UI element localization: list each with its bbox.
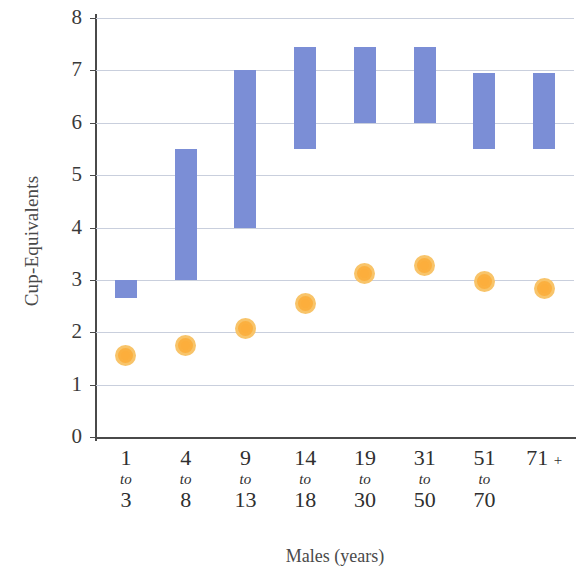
x-tick-label-top: 14 xyxy=(273,446,337,470)
y-tick-mark xyxy=(90,280,96,281)
range-bar xyxy=(294,47,316,149)
chart-container: Cup-Equivalents 012345678 1to34to89to131… xyxy=(0,0,576,577)
y-tick-label: 2 xyxy=(48,321,82,342)
x-tick-label-bottom: 50 xyxy=(393,488,457,512)
y-tick-label: 4 xyxy=(48,217,82,238)
x-tick-label-top: 9 xyxy=(213,446,277,470)
gridline xyxy=(96,70,574,71)
data-point-marker xyxy=(115,345,136,366)
x-tick-label-bottom: 30 xyxy=(333,488,397,512)
y-tick-mark xyxy=(90,332,96,333)
range-bar xyxy=(473,73,495,149)
data-point-marker xyxy=(534,278,555,299)
range-bar xyxy=(414,47,436,123)
x-tick-label-top: 71 + xyxy=(512,446,576,470)
x-tick-label: 14to18 xyxy=(273,446,337,512)
y-tick-mark xyxy=(90,175,96,176)
data-point-marker xyxy=(354,263,375,284)
gridline xyxy=(96,332,574,333)
y-tick-label: 5 xyxy=(48,164,82,185)
data-point-marker xyxy=(175,335,196,356)
gridline xyxy=(96,280,574,281)
x-axis-tick-labels: 1to34to89to1314to1819to3031to5051to7071 … xyxy=(96,446,574,536)
range-bar xyxy=(175,149,197,280)
x-tick-label: 71 + xyxy=(512,446,576,470)
x-tick-label-mid: to xyxy=(333,471,397,487)
x-tick-label: 51to70 xyxy=(452,446,516,512)
gridline xyxy=(96,18,574,19)
y-tick-mark xyxy=(90,123,96,124)
x-tick-label-mid: to xyxy=(393,471,457,487)
x-tick-label-plus: + xyxy=(554,452,562,468)
data-point-marker xyxy=(414,255,435,276)
y-tick-mark xyxy=(90,228,96,229)
y-axis-tick-labels: 012345678 xyxy=(22,0,82,460)
x-tick-label-top: 51 xyxy=(452,446,516,470)
data-point-marker xyxy=(295,293,316,314)
data-point-marker xyxy=(235,318,256,339)
gridline xyxy=(96,385,574,386)
x-tick-label: 19to30 xyxy=(333,446,397,512)
x-tick-label: 9to13 xyxy=(213,446,277,512)
x-tick-label-top: 31 xyxy=(393,446,457,470)
data-point-marker xyxy=(474,271,495,292)
y-tick-label: 3 xyxy=(48,269,82,290)
x-tick-label: 1to3 xyxy=(94,446,158,512)
y-tick-label: 6 xyxy=(48,112,82,133)
x-tick-label-bottom: 8 xyxy=(154,488,218,512)
x-tick-label-mid: to xyxy=(452,471,516,487)
gridline xyxy=(96,228,574,229)
x-tick-label-mid: to xyxy=(154,471,218,487)
y-tick-label: 8 xyxy=(48,7,82,28)
y-tick-label: 1 xyxy=(48,374,82,395)
x-tick-label-mid: to xyxy=(94,471,158,487)
range-bar xyxy=(115,280,137,298)
y-tick-mark xyxy=(90,437,96,438)
x-tick-label-mid: to xyxy=(213,471,277,487)
plot-area xyxy=(96,18,574,437)
y-tick-mark xyxy=(90,18,96,19)
x-tick-label-bottom: 13 xyxy=(213,488,277,512)
x-tick-label-bottom: 3 xyxy=(94,488,158,512)
y-tick-mark xyxy=(90,385,96,386)
x-tick-label: 31to50 xyxy=(393,446,457,512)
y-tick-label: 0 xyxy=(48,426,82,447)
x-tick-label-bottom: 18 xyxy=(273,488,337,512)
gridline xyxy=(96,123,574,124)
x-tick-label-mid: to xyxy=(273,471,337,487)
gridline xyxy=(96,437,574,438)
x-tick-label: 4to8 xyxy=(154,446,218,512)
y-tick-label: 7 xyxy=(48,59,82,80)
range-bar xyxy=(533,73,555,149)
x-tick-label-top: 19 xyxy=(333,446,397,470)
range-bar xyxy=(234,70,256,227)
x-tick-label-top: 4 xyxy=(154,446,218,470)
y-tick-mark xyxy=(90,70,96,71)
x-axis-title: Males (years) xyxy=(96,546,574,567)
x-tick-label-bottom: 70 xyxy=(452,488,516,512)
x-tick-label-top: 1 xyxy=(94,446,158,470)
range-bar xyxy=(354,47,376,123)
gridline xyxy=(96,175,574,176)
